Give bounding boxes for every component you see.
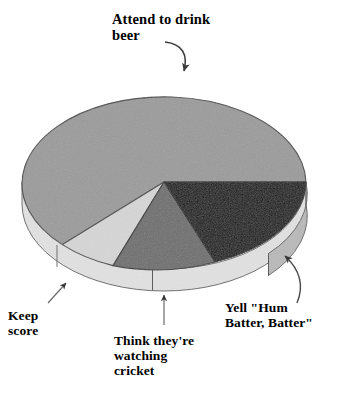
callout-yell-hum-batter: Yell "Hum Batter, Batter" xyxy=(225,300,345,330)
arrow-attend-to-drink-beer xyxy=(165,42,185,71)
arrow-yell-hum-batter xyxy=(285,256,300,303)
arrow-keep-score xyxy=(48,283,66,303)
callout-attend-to-drink-beer: Attend to drink beer xyxy=(112,11,262,43)
pie-chart-figure: Attend to drink beer Keep score Think th… xyxy=(0,0,345,398)
callout-keep-score: Keep score xyxy=(8,308,88,338)
callout-think-watching-cricket: Think they're watching cricket xyxy=(114,333,234,378)
